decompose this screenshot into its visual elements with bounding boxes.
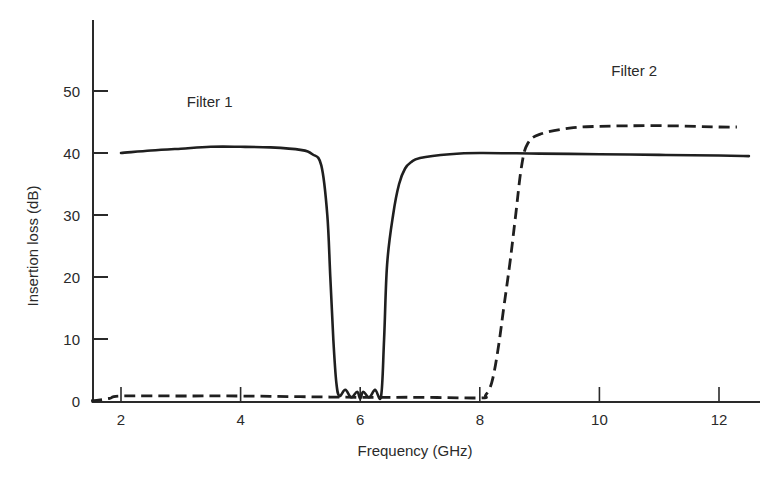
y-ticks: 01020304050: [63, 83, 108, 410]
x-axis-title: Frequency (GHz): [357, 442, 472, 459]
x-tick-label: 4: [236, 411, 244, 428]
y-tick-label: 30: [63, 207, 80, 224]
y-tick-label: 40: [63, 145, 80, 162]
x-tick-label: 8: [476, 411, 484, 428]
filter-2-label: Filter 2: [611, 62, 657, 79]
y-tick-label: 50: [63, 83, 80, 100]
y-tick-label: 10: [63, 331, 80, 348]
x-tick-label: 2: [117, 411, 125, 428]
series-layer: [91, 126, 749, 401]
x-ticks: 24681012: [117, 387, 728, 428]
x-tick-label: 12: [711, 411, 728, 428]
x-tick-label: 10: [591, 411, 608, 428]
y-tick-label: 20: [63, 269, 80, 286]
filter-1-label: Filter 1: [187, 93, 233, 110]
x-tick-label: 6: [356, 411, 364, 428]
y-tick-label: 0: [72, 393, 80, 410]
filter-2-curve: [91, 126, 737, 401]
y-axis-title: Insertion loss (dB): [24, 186, 41, 307]
insertion-loss-chart: 01020304050 24681012 Frequency (GHz) Ins…: [0, 0, 778, 479]
axes: 01020304050 24681012 Frequency (GHz) Ins…: [24, 20, 760, 459]
filter-1-curve: [121, 147, 749, 399]
